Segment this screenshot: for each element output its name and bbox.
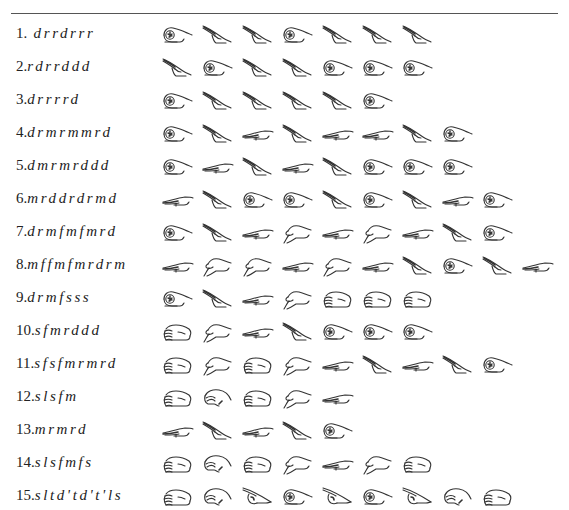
exercise-row: 14.slsfmfs [0, 450, 569, 483]
hand-sign-flat-hand-icon [360, 122, 394, 146]
exercise-label: 9.drmfsss [16, 285, 91, 309]
hand-sign-slanted-hand-icon [280, 89, 314, 113]
hand-sign-palm-icon [160, 386, 194, 410]
hand-sign-fist-icon [280, 188, 314, 212]
hand-sign-flat-hand-icon [240, 320, 274, 344]
exercise-number: 3. [16, 91, 27, 107]
exercise-label: 14.slsfmfs [16, 450, 94, 474]
hand-sign-flat-hand-icon [320, 353, 354, 377]
hand-sign-flat-hand-icon [400, 221, 434, 245]
hand-sign-slanted-hand-icon [400, 188, 434, 212]
hand-sign-flat-hand-icon [240, 221, 274, 245]
solfege-sequence: rdrrddd [27, 58, 92, 74]
exercise-row: 10.sfmrddd [0, 318, 569, 351]
top-rule [11, 13, 558, 14]
hand-sign-slanted-hand-icon [280, 320, 314, 344]
hand-sign-flat-hand-icon [280, 254, 314, 278]
hand-sign-flat-hand-icon [160, 254, 194, 278]
hand-sign-slanted-hand-icon [200, 188, 234, 212]
hand-sign-slanted-hand-icon [280, 122, 314, 146]
hand-sign-palm-icon [160, 353, 194, 377]
hand-sign-slanted-hand-icon [200, 221, 234, 245]
exercise-label: 8.mffmfmrdrm [16, 252, 128, 276]
hand-sign-thumb-down-icon [280, 386, 314, 410]
hand-sign-slanted-hand-icon [200, 419, 234, 443]
solfege-sequence: drmfmfmrd [27, 223, 117, 239]
exercise-row: 12.slsfm [0, 384, 569, 417]
hand-sign-palm-icon [160, 452, 194, 476]
hand-sign-fist-icon [480, 188, 514, 212]
hand-sign-slanted-hand-icon [440, 221, 474, 245]
exercise-number: 5. [16, 157, 27, 173]
hand-sign-thumb-down-icon [200, 353, 234, 377]
exercise-row: 3.drrrrd [0, 87, 569, 120]
hand-sign-slanted-hand-icon [320, 89, 354, 113]
hand-sign-fist-icon [360, 155, 394, 179]
exercise-row: 2.rdrrddd [0, 54, 569, 87]
hand-sign-thumb-down-icon [280, 353, 314, 377]
exercise-number: 7. [16, 223, 27, 239]
hand-sign-fist-icon [400, 155, 434, 179]
hand-sign-slanted-hand-icon [360, 353, 394, 377]
exercise-label: 6.mrddrdrmd [16, 186, 119, 210]
solfege-sequence: mffmfmrdrm [27, 256, 127, 272]
hand-sign-fist-icon [360, 485, 394, 509]
hand-sign-fist-icon [160, 155, 194, 179]
hand-sign-fist-icon [160, 122, 194, 146]
exercise-number: 12. [16, 388, 35, 404]
exercise-label: 10.sfmrddd [16, 318, 102, 342]
exercise-label: 11.sfsfmrmrd [16, 351, 118, 375]
hand-sign-thumb-down-icon [280, 221, 314, 245]
hand-sign-flat-hand-icon [200, 155, 234, 179]
solfege-sequence: mrddrdrmd [27, 190, 118, 206]
hand-sign-flat-hand-icon [280, 155, 314, 179]
hand-sign-drooping-hand-icon [200, 485, 234, 509]
hand-sign-fist-icon [440, 254, 474, 278]
hand-sign-palm-icon [400, 287, 434, 311]
hand-sign-fist-icon [160, 287, 194, 311]
hand-sign-flat-hand-icon [400, 353, 434, 377]
hand-sign-slanted-hand-icon [200, 287, 234, 311]
hand-sign-pointing-icon [400, 485, 434, 509]
hand-sign-slanted-hand-icon [320, 23, 354, 47]
hand-sign-slanted-hand-icon [240, 155, 274, 179]
exercise-number: 10. [16, 322, 35, 338]
solfege-sequence: sltd'td't'ls [35, 487, 123, 503]
hand-sign-palm-icon [160, 320, 194, 344]
hand-sign-fist-icon [440, 122, 474, 146]
exercise-number: 14. [16, 454, 35, 470]
solfege-sequence: drmfsss [27, 289, 91, 305]
hand-sign-slanted-hand-icon [440, 353, 474, 377]
hand-sign-flat-hand-icon [160, 188, 194, 212]
exercise-row: 1. drrdrrr [0, 21, 569, 54]
hand-sign-fist-icon [480, 221, 514, 245]
exercise-number: 1. [16, 25, 27, 41]
exercise-label: 13.mrmrd [16, 417, 88, 441]
solfege-sequence: mrmrd [35, 421, 88, 437]
hand-sign-palm-icon [320, 287, 354, 311]
hand-sign-flat-hand-icon [440, 188, 474, 212]
hand-sign-pointing-icon [320, 485, 354, 509]
exercise-row: 6.mrddrdrmd [0, 186, 569, 219]
hand-sign-fist-icon [280, 23, 314, 47]
hand-sign-fist-icon [320, 419, 354, 443]
hand-sign-flat-hand-icon [240, 122, 274, 146]
hand-sign-slanted-hand-icon [240, 89, 274, 113]
exercise-row: 5.dmrmrddd [0, 153, 569, 186]
exercise-label: 7.drmfmfmrd [16, 219, 118, 243]
hand-sign-fist-icon [400, 320, 434, 344]
hand-sign-pointing-icon [240, 485, 274, 509]
hand-sign-fist-icon [160, 221, 194, 245]
hand-sign-fist-icon [360, 56, 394, 80]
hand-sign-slanted-hand-icon [240, 56, 274, 80]
hand-sign-fist-icon [360, 188, 394, 212]
hand-sign-drooping-hand-icon [200, 452, 234, 476]
hand-sign-slanted-hand-icon [200, 122, 234, 146]
solfege-sequence: drrdrrr [27, 25, 95, 41]
hand-sign-slanted-hand-icon [320, 155, 354, 179]
hand-sign-fist-icon [160, 89, 194, 113]
hand-sign-slanted-hand-icon [240, 23, 274, 47]
solfege-sequence: dmrmrddd [27, 157, 111, 173]
solfege-sequence: drmrmmrd [27, 124, 112, 140]
hand-sign-thumb-down-icon [200, 320, 234, 344]
